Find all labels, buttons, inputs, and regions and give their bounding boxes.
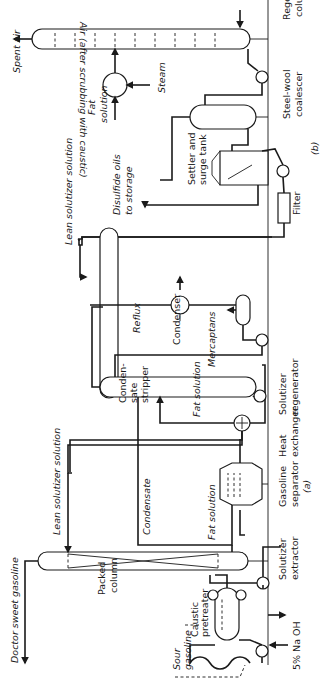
panel-a-label: (a) [301,480,312,493]
lean-solution-mid-label: Lean solutizer solution [51,428,62,535]
sour-gasoline-coil [190,645,250,669]
gasoline-separator-label-2: separator [289,461,300,507]
caustic-pump [239,640,268,663]
condensate-stripper-label-3: stripper [139,366,150,403]
disulfide-label-2: to storage [123,166,134,215]
steam-heater-b [103,49,150,120]
packed-column [38,552,268,570]
spent-air-label: Spent air [11,29,22,73]
condensate-stripper-label-2: sate [128,383,139,403]
lean-to-packed [68,431,242,473]
filter-unit [270,177,290,237]
solutizer-extractor-label-1: Solutizer [277,538,288,580]
doctor-sweet-label: Doctor sweet gasoline [9,557,20,663]
fat-solution-b-label-2: solution [98,85,109,123]
fat-sol-line [240,510,245,535]
process-flow-diagram: Air (after scrubbing with caustic) Spent… [0,0,326,685]
lean-solution-top-label: Lean solutizer solution [63,138,74,245]
disulfide-oils-line [145,185,258,207]
heat-exchanger-label-2: exchanger [289,407,300,457]
gasoline-separator-label-1: Gasoline [277,466,288,507]
bottoms-pump [253,390,266,402]
settler-surge-tank [212,151,268,185]
regenerator-column-b [32,29,268,49]
solutizer-extractor-label-2: extractor [289,536,300,580]
condenser-label: Condenser [171,294,182,345]
condensate-label: Condensate [141,478,152,535]
naoh-label: 5% Na OH [291,621,302,670]
packed-column-label-2: column [108,558,119,593]
caustic-pretreater [208,575,246,640]
coalescer-to-settler [232,129,248,151]
settler-label-1: Settler and [186,132,197,185]
coalescer-label-1: Steel-wool [281,69,292,119]
regenerator-column-label-1: Regenerator [281,0,292,20]
sour-gasoline-label-1: Sour [171,647,182,670]
disulfide-label-1: Disulfide oils [111,154,122,215]
steam-label: Steam [156,62,167,93]
mercaptans-label: Mercaptans [206,311,217,367]
steel-wool-coalescer [190,105,268,129]
caustic-pretreater-label-2: pretreater [199,589,210,637]
filter-label: Filter [291,191,302,215]
fat-solution-2-label: Fat solution [206,484,217,540]
pump-b1 [205,49,268,105]
reflux-label: Reflux [131,302,142,333]
gasoline-separator [220,463,268,505]
fat-solution-b-label-1: Fat [86,99,97,115]
settler-label-2: surge tank [197,134,208,185]
doctor-sweet-out [25,561,38,663]
regenerator-column-label-2: column [293,0,304,17]
panel-b-label: (b) [309,142,320,155]
sour-gasoline-label-2: gasoline [182,630,193,670]
heat-exchanger-label-1: Heat [277,434,288,457]
condensate-line [138,397,232,545]
solutizer-regenerator-label-1: Solutizer [277,373,288,415]
condensate-stripper-label-1: Conden- [117,363,128,403]
fat-solution-1-label: Fat solution [191,361,202,417]
coalescer-label-2: coalescer [293,72,304,117]
mercaptans-drum [189,295,258,340]
heat-exchanger [160,365,265,431]
hx-lean-out [70,431,242,472]
packed-column-label-1: Packed [96,562,107,595]
